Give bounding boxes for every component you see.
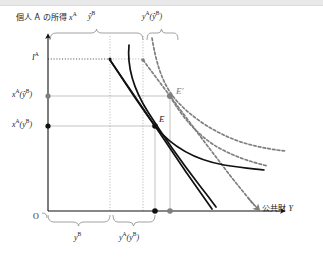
kink-marker-shifted: [141, 58, 145, 62]
x-axis-label: 公共財 Y: [262, 205, 293, 213]
y-axis-label-jp: 個人 A の所得: [16, 13, 67, 22]
point-E-marker: [152, 123, 158, 129]
y-marker-xA-yhatB: [45, 93, 50, 98]
y-tick-label-xA-yhatB: xA(ŷB): [12, 91, 32, 99]
bottom-brace-yAyB-close: ): [136, 233, 139, 242]
y-tick-label-IA: IA: [32, 54, 39, 62]
y-tick-xA-yB-close: ): [29, 120, 32, 129]
axes: [48, 36, 283, 211]
bottom-braces: [42, 213, 155, 226]
top-braces: [50, 29, 178, 40]
point-E-prime-marker: [167, 93, 173, 99]
y-marker-xA-yB: [45, 123, 50, 128]
equilibrium-E-label: E: [159, 115, 165, 124]
x-marker-yhatB-total: [167, 208, 173, 214]
diagram-svg: [0, 0, 323, 261]
figure-canvas: 個人 A の所得 xA ŷB yA(ŷB) IA xA(ŷB) xA(yB) E…: [0, 0, 323, 261]
solid-curves: [110, 45, 264, 209]
x-axis-label-jp: 公共財: [262, 204, 286, 213]
bottom-brace-label-yA-of-yB: yA(yB): [119, 234, 139, 242]
bottom-brace-yB-sup: B: [78, 231, 82, 237]
y-axis-label: 個人 A の所得 xA: [16, 14, 77, 22]
dashed-curve-arrow: [248, 198, 258, 209]
y-axis-extra-label: ŷB: [88, 13, 95, 21]
top-brace-label-yA-of-yhatB: yA(ŷB): [142, 13, 162, 21]
x-marker-yB-total: [152, 208, 158, 214]
x-axis-label-math: Y: [289, 204, 293, 213]
y-tick-xA-yhatB-close: ): [29, 90, 32, 99]
origin-label: O: [33, 213, 39, 221]
y-axis-label-math-sup: A: [73, 11, 77, 17]
markers: [45, 57, 173, 213]
y-axis-extra-label-sup: B: [92, 10, 96, 16]
equilibrium-E-prime-label: E′: [176, 87, 183, 96]
indifference-curve-solid-path: [110, 60, 264, 170]
kink-marker-IA: [108, 57, 111, 60]
y-tick-label-xA-yB: xA(yB): [12, 121, 32, 129]
indifference-curve-dashed-lower-path: [170, 96, 268, 166]
guide-lines: [48, 96, 170, 211]
bottom-brace-label-yB: yB: [74, 234, 81, 242]
y-tick-label-IA-sup: A: [35, 51, 39, 57]
